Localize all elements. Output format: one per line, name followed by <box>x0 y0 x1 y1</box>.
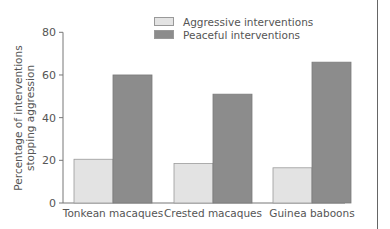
category-label: Crested macaques <box>164 207 262 219</box>
bar-peaceful <box>113 75 152 203</box>
bar-aggressive <box>174 164 213 203</box>
y-tick-label: 80 <box>42 26 56 39</box>
bar-chart: 020406080Percentage of interventionsstop… <box>0 0 390 229</box>
y-axis-title: Percentage of interventionsstopping aggr… <box>12 45 36 190</box>
y-tick-label: 20 <box>42 154 56 167</box>
bar-aggressive <box>273 168 312 203</box>
labels: Tonkean macaquesCrested macaquesGuinea b… <box>62 207 355 219</box>
bar-aggressive <box>74 159 113 203</box>
category-label: Guinea baboons <box>269 207 354 219</box>
y-tick-label: 0 <box>49 197 56 210</box>
bar-peaceful <box>312 62 351 203</box>
bars <box>74 62 351 203</box>
y-tick-label: 60 <box>42 69 56 82</box>
category-label: Tonkean macaques <box>62 207 163 219</box>
bar-peaceful <box>213 94 252 203</box>
y-tick-label: 40 <box>42 112 56 125</box>
